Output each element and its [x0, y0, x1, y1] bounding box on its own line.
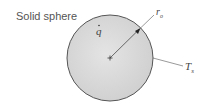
radius-label: ro [156, 6, 163, 19]
surface-temp-label: Ts [185, 60, 194, 75]
heat-generation-label: q [96, 25, 102, 37]
surface-temp-leader [153, 58, 183, 66]
diagram-title: Solid sphere [16, 10, 77, 22]
radius-leader [140, 15, 154, 29]
